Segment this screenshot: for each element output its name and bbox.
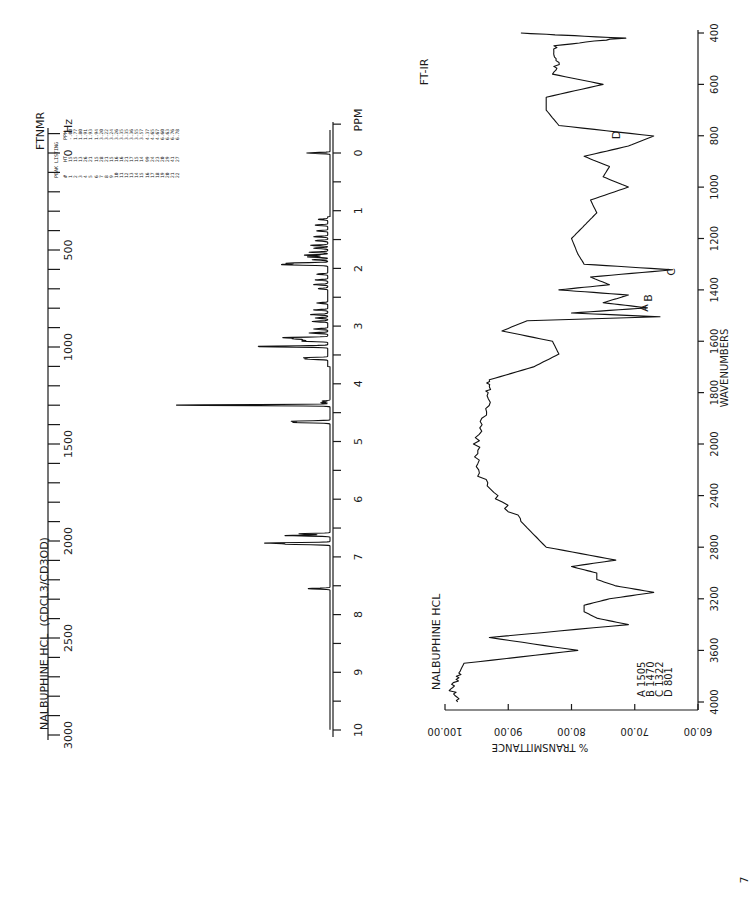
ir-y-tick-label: 80.00 xyxy=(557,726,586,737)
ir-x-tick-label: 3200 xyxy=(709,586,720,611)
hz-tick-label: 2500 xyxy=(62,624,75,652)
ir-x-tick-label: 2800 xyxy=(709,534,720,559)
ir-y-tick-label: 90.00 xyxy=(494,726,523,737)
ir-ylabel: % TRANSMITTANCE xyxy=(492,742,588,753)
ppm-tick-label: 9 xyxy=(352,669,365,676)
nmr-instrument-label: FTNMR xyxy=(34,111,47,150)
ir-x-tick-label: 1200 xyxy=(709,226,720,251)
ir-x-tick-label: 600 xyxy=(709,75,720,94)
nmr-hz-axis: 050010001500200025003000 xyxy=(48,128,75,749)
ir-peak-annotations: ABCD xyxy=(610,131,678,312)
ir-x-tick-label: 400 xyxy=(709,23,720,42)
nmr-title: NALBUPHINE HCL (CDCL3/CD3OD) xyxy=(38,537,51,730)
peak-listing-cell: 6.78 xyxy=(175,129,180,140)
ir-peak-label-c: C xyxy=(665,268,678,276)
ppm-tick-label: 4 xyxy=(352,380,365,387)
ir-legend-line: D 801 xyxy=(663,667,674,697)
peak-listing-title: PEAK LISTING xyxy=(53,142,59,178)
ppm-tick-label: 1 xyxy=(352,207,365,214)
ppm-tick-label: 2 xyxy=(352,265,365,272)
hz-tick-label: 500 xyxy=(62,240,75,261)
ir-peak-label-b: B xyxy=(642,294,655,302)
ir-x-tick-label: 2400 xyxy=(709,483,720,508)
ir-xlabel: WAVENUMBERS xyxy=(719,329,730,408)
ir-spectrum-trace xyxy=(449,33,673,702)
ppm-tick-label: 10 xyxy=(352,723,365,737)
ppm-tick-label: 5 xyxy=(352,438,365,445)
ir-x-tick-label: 3600 xyxy=(709,638,720,663)
hz-tick-label: 1000 xyxy=(62,333,75,361)
peak-listing-cell: 22 xyxy=(175,172,180,178)
ir-y-tick-label: 60.00 xyxy=(684,726,713,737)
ir-x-tick-label: 4000 xyxy=(709,689,720,714)
ir-wavenumber-axis: 4000360032002800240020001800160014001200… xyxy=(698,23,720,714)
ir-y-tick-label: 70.00 xyxy=(620,726,649,737)
spectra-page: 050010001500200025003000 FTNMR Hz NALBUP… xyxy=(0,0,756,901)
ppm-tick-label: 6 xyxy=(352,496,365,503)
peak-listing-cell: 27 xyxy=(175,156,180,162)
page-number: 7 xyxy=(738,877,751,884)
ppm-tick-label: 8 xyxy=(352,611,365,618)
ir-x-tick-label: 1000 xyxy=(709,174,720,199)
ir-instrument-label: FT-IR xyxy=(418,58,431,85)
ppm-tick-label: 3 xyxy=(352,323,365,330)
ir-peak-label-d: D xyxy=(610,131,623,139)
nmr-ppm-unit: PPM xyxy=(352,109,365,132)
ppm-tick-label: 7 xyxy=(352,553,365,560)
ir-title: NALBUPHINE HCL xyxy=(430,593,443,690)
ppm-tick-label: 0 xyxy=(352,150,365,157)
nmr-ppm-axis: 012345678910 xyxy=(333,122,365,737)
ir-peak-legend: A 1505B 1470C 1322D 801 xyxy=(636,661,674,697)
ir-y-tick-label: 100.00 xyxy=(428,726,463,737)
hz-tick-label: 2000 xyxy=(62,527,75,555)
ir-transmittance-axis: 60.0070.0080.0090.00100.00 xyxy=(428,704,713,737)
hz-tick-label: 0 xyxy=(62,150,75,157)
ir-x-tick-label: 2000 xyxy=(709,431,720,456)
ir-x-tick-label: 800 xyxy=(709,126,720,145)
hz-tick-label: 1500 xyxy=(62,430,75,458)
ir-x-tick-label: 1400 xyxy=(709,277,720,302)
hz-tick-label: 3000 xyxy=(62,721,75,749)
nmr-spectrum-trace xyxy=(177,130,331,730)
ir-peak-label-a: A xyxy=(638,304,651,312)
